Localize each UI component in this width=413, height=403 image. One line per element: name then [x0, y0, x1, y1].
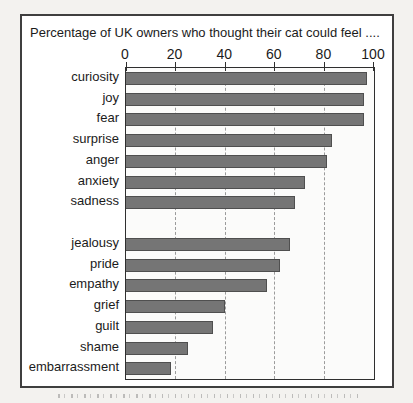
category-label: pride: [24, 254, 119, 275]
axis-tick-label: 80: [303, 46, 343, 62]
category-label: shame: [24, 337, 119, 358]
category-label: guilt: [24, 316, 119, 337]
axis-tick-label: 40: [204, 46, 244, 62]
category-label: surprise: [24, 129, 119, 150]
category-label: curiosity: [24, 67, 119, 88]
axis-tick-label: 20: [155, 46, 195, 62]
bar: [126, 93, 364, 106]
bar: [126, 342, 188, 355]
category-label: anger: [24, 150, 119, 171]
cut-off-text-remnant: [58, 394, 362, 398]
chart-frame: Percentage of UK owners who thought thei…: [20, 14, 394, 388]
axis-tick-label: 100: [353, 46, 393, 62]
bar: [126, 259, 280, 272]
bar: [126, 300, 225, 313]
bar: [126, 238, 290, 251]
axis-tick: [225, 62, 226, 71]
bar: [126, 176, 305, 189]
axis-tick: [324, 62, 325, 71]
bar: [126, 321, 213, 334]
category-label: fear: [24, 108, 119, 129]
axis-tick-label: 0: [105, 46, 145, 62]
category-label: embarrassment: [24, 357, 119, 378]
axis-tick-label: 60: [254, 46, 294, 62]
axis-tick: [373, 62, 374, 71]
axis-tick: [175, 62, 176, 71]
bar: [126, 362, 171, 375]
axis-tick: [274, 62, 275, 71]
category-label: joy: [24, 88, 119, 109]
bar: [126, 155, 327, 168]
chart-title: Percentage of UK owners who thought thei…: [30, 25, 386, 41]
axis-tick: [126, 62, 127, 71]
bar: [126, 113, 364, 126]
category-label: anxiety: [24, 171, 119, 192]
plot-area: [125, 67, 375, 380]
category-label: empathy: [24, 274, 119, 295]
bar: [126, 279, 267, 292]
category-label: grief: [24, 295, 119, 316]
screenshot-root: Percentage of UK owners who thought thei…: [0, 0, 413, 403]
category-label: jealousy: [24, 233, 119, 254]
category-label: sadness: [24, 191, 119, 212]
bar: [126, 134, 332, 147]
bar: [126, 72, 367, 85]
bar: [126, 196, 295, 209]
